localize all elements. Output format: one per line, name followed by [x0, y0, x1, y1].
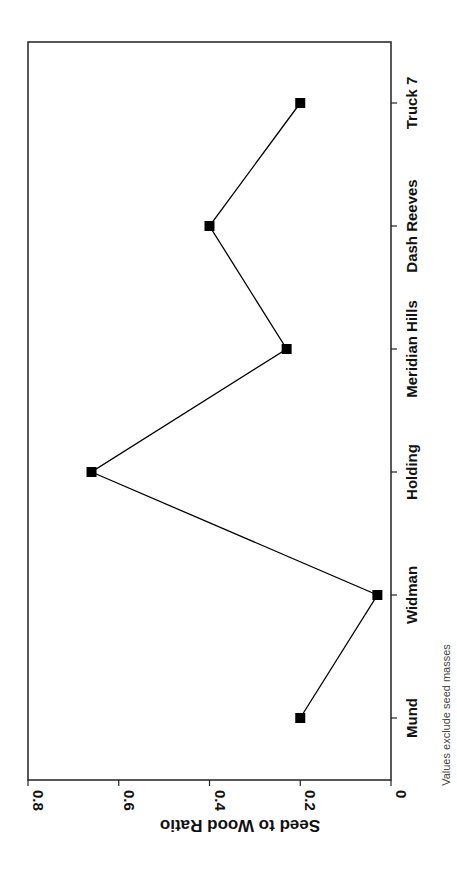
- data-point-marker: [205, 221, 215, 231]
- value-tick-label: 0.6: [121, 790, 138, 811]
- value-tick-label: 0.2: [302, 790, 319, 811]
- data-point-marker: [295, 713, 305, 723]
- value-tick-label: 0.4: [212, 790, 229, 812]
- plot-frame: [28, 42, 391, 780]
- category-axis: MundWidmanHoldingMeridian HillsDash Reev…: [391, 77, 420, 738]
- chart: 00.20.40.60.8 MundWidmanHoldingMeridian …: [0, 0, 457, 891]
- data-point-marker: [87, 467, 97, 477]
- data-point-marker: [372, 590, 382, 600]
- footnote: Values exclude seed masses: [440, 644, 452, 786]
- value-tick-label: 0.8: [30, 790, 47, 811]
- value-axis-title: Seed to Wood Ratio: [160, 816, 320, 835]
- value-tick-label: 0: [393, 790, 410, 798]
- data-point-marker: [282, 344, 292, 354]
- category-label: Holding: [403, 444, 420, 500]
- data-point-marker: [295, 98, 305, 108]
- category-label: Dash Reeves: [403, 179, 420, 272]
- category-label: Widman: [403, 566, 420, 624]
- category-label: Truck 7: [403, 77, 420, 130]
- value-axis: 00.20.40.60.8: [28, 780, 410, 812]
- category-label: Meridian Hills: [403, 300, 420, 398]
- category-label: Mund: [403, 698, 420, 738]
